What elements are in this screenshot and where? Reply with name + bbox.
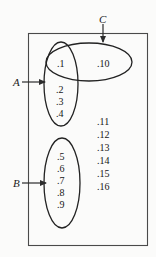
element-dot-10: .10 (97, 59, 110, 69)
element-dot-7: .7 (57, 176, 65, 186)
set-b-label: B (13, 178, 20, 189)
element-dot-14: .14 (97, 156, 110, 166)
element-dot-15: .15 (97, 169, 110, 179)
element-dot-16: .16 (97, 182, 110, 192)
set-a-label: A (13, 77, 20, 88)
element-dot-11: .11 (97, 117, 109, 127)
element-dot-13: .13 (97, 143, 110, 153)
element-dot-5: .5 (57, 152, 65, 162)
element-dot-4: .4 (56, 109, 64, 119)
element-dot-12: .12 (97, 130, 110, 140)
element-dot-1: .1 (57, 59, 65, 69)
diagram-canvas: A B C .1 .2 .3 .4 .10 .5 .6 .7 .8 .9 .11… (0, 0, 156, 257)
set-c-label: C (99, 14, 106, 25)
set-diagram-graphics (0, 0, 156, 257)
element-dot-6: .6 (57, 164, 65, 174)
element-dot-2: .2 (56, 85, 64, 95)
element-dot-3: .3 (56, 97, 64, 107)
element-dot-8: .8 (57, 188, 65, 198)
element-dot-9: .9 (57, 200, 65, 210)
